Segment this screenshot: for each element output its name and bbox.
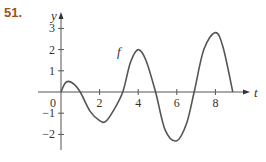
y-tick-label: −2 <box>42 127 55 141</box>
y-tick-label: 2 <box>49 43 55 57</box>
x-axis-arrow-icon <box>243 90 250 95</box>
y-axis-arrow-icon <box>59 12 64 19</box>
x-tick-label: 6 <box>174 96 180 110</box>
x-axis-label: t <box>254 85 258 100</box>
curve-f <box>61 33 233 141</box>
curve-label: f <box>117 44 123 59</box>
x-tick-label: 4 <box>135 96 141 110</box>
axis-ticks <box>58 28 215 134</box>
origin-label: 0 <box>50 96 56 110</box>
function-graph: 2468−2−11230ty f <box>0 0 266 162</box>
x-tick-label: 2 <box>97 96 103 110</box>
x-tick-label: 8 <box>212 96 218 110</box>
y-tick-label: 1 <box>49 64 55 78</box>
y-axis-label: y <box>49 8 57 23</box>
y-tick-label: 3 <box>49 21 55 35</box>
